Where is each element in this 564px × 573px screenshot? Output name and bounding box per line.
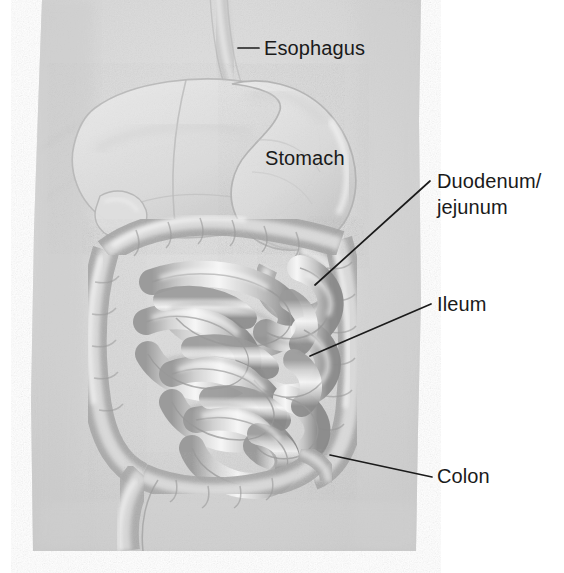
label-duodenum-line1: Duodenum/ xyxy=(437,170,542,192)
label-duodenum-line2: jejunum xyxy=(436,196,508,218)
label-esophagus: Esophagus xyxy=(264,37,365,59)
illustration-canvas: Esophagus Stomach Duodenum/ jejunum Ileu… xyxy=(0,0,564,573)
label-ileum: Ileum xyxy=(437,293,486,315)
digestive-system-figure: Esophagus Stomach Duodenum/ jejunum Ileu… xyxy=(0,0,564,573)
label-stomach: Stomach xyxy=(265,147,345,169)
label-colon: Colon xyxy=(437,465,490,487)
